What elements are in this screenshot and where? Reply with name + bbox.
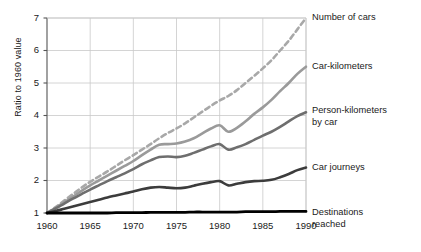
series-label-0: Number of cars [312,12,376,24]
y-tick-label-4: 4 [25,109,39,120]
y-tick-label-6: 6 [25,44,39,55]
series-label-2: Person-kilometers by car [312,105,387,128]
y-tick-label-2: 2 [25,174,39,185]
x-tick-label-1975: 1975 [157,220,197,231]
y-tick-label-5: 5 [25,77,39,88]
series-label-1: Car-kilometers [312,61,372,73]
x-tick-label-1965: 1965 [70,220,110,231]
chart-container: Ratio to 1960 value 1234567 196019651970… [0,0,421,252]
y-tick-label-1: 1 [25,207,39,218]
x-tick-label-1960: 1960 [27,220,67,231]
y-tick-label-7: 7 [25,12,39,23]
series-line-4 [47,211,306,213]
x-tick-label-1985: 1985 [243,220,283,231]
y-tick-label-3: 3 [25,142,39,153]
series-label-4: Destinations reached [312,207,363,230]
series-label-3: Car journeys [312,162,365,174]
x-tick-label-1970: 1970 [113,220,153,231]
y-axis-title: Ratio to 1960 value [13,7,23,147]
x-tick-label-1980: 1980 [200,220,240,231]
